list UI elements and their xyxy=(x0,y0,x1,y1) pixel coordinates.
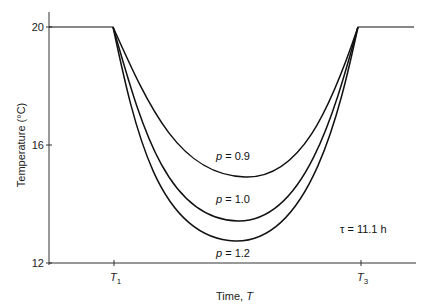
y-tick-label-16: 16 xyxy=(32,139,44,151)
tau-annotation: τ = 11.1 h xyxy=(340,223,387,235)
curve-p-1-0 xyxy=(113,27,358,221)
t3-sub: 3 xyxy=(364,277,369,286)
label-p-1-2-val: = 1.2 xyxy=(222,247,250,259)
y-tick-label-12: 12 xyxy=(32,257,44,269)
curve-p-1-2 xyxy=(113,27,358,241)
x-axis-title-var: T xyxy=(246,290,254,302)
x-axis-title: Time, T xyxy=(216,290,254,302)
label-p-0-9-var: p xyxy=(215,150,222,162)
label-p-0-9-val: = 0.9 xyxy=(222,150,250,162)
x-axis-title-text: Time, xyxy=(216,290,246,302)
label-p-0-9: p = 0.9 xyxy=(215,150,250,162)
label-p-1-2-var: p xyxy=(215,247,222,259)
y-axis-title: Temperature (°C) xyxy=(15,103,27,187)
t1-sub: 1 xyxy=(117,277,122,286)
label-p-1-2: p = 1.2 xyxy=(215,247,250,259)
x-tick-label-t3: T3 xyxy=(357,271,369,286)
x-tick-label-t1: T1 xyxy=(110,271,122,286)
label-p-1-0: p = 1.0 xyxy=(215,193,250,205)
y-tick-label-20: 20 xyxy=(32,21,44,33)
temperature-chart: 20 16 12 Temperature (°C) T1 T3 Time, T … xyxy=(0,0,431,308)
label-p-1-0-val: = 1.0 xyxy=(222,193,250,205)
label-p-1-0-var: p xyxy=(215,193,222,205)
